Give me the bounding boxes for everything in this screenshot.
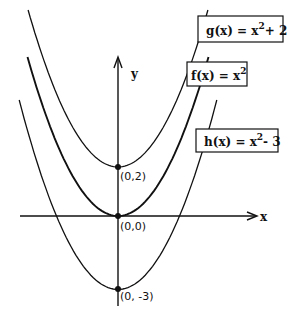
legend-h-text: h(x) = x bbox=[204, 135, 258, 149]
y-axis-label: y bbox=[130, 67, 139, 81]
legend-g-text: g(x) = x bbox=[206, 24, 259, 38]
legend-h-tail: - 3 bbox=[263, 135, 281, 149]
legend-g: g(x) = x2+ 2 bbox=[198, 16, 287, 42]
legend-f-sup: 2 bbox=[240, 66, 246, 76]
svg-text:h(x) = x2- 3: h(x) = x2- 3 bbox=[204, 132, 281, 149]
legend-f: f(x) = x2 bbox=[187, 62, 247, 86]
svg-text:g(x) = x2+ 2: g(x) = x2+ 2 bbox=[206, 21, 287, 38]
function-graph: x y (0,2) (0,0) (0, -3) g(x) = x2+ 2 f(x… bbox=[0, 0, 297, 327]
point-label-f: (0,0) bbox=[120, 220, 146, 233]
point-label-h: (0, -3) bbox=[120, 290, 154, 303]
svg-text:f(x) = x2: f(x) = x2 bbox=[191, 66, 247, 83]
point-f-vertex bbox=[115, 213, 121, 219]
x-axis-label: x bbox=[260, 210, 268, 224]
point-label-g: (0,2) bbox=[120, 170, 146, 183]
legend-h: h(x) = x2- 3 bbox=[196, 129, 281, 152]
legend-g-tail: + 2 bbox=[265, 24, 288, 38]
legend-f-text: f(x) = x bbox=[191, 69, 241, 83]
